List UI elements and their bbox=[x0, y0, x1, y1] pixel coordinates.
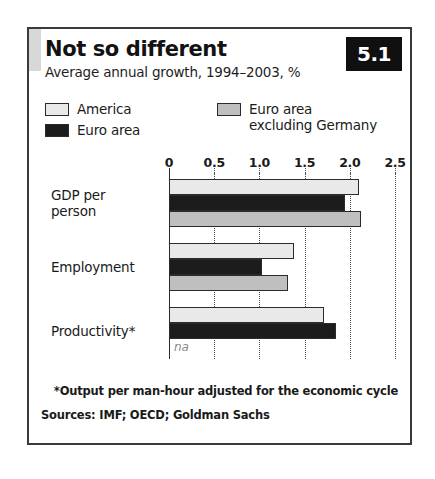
legend-item-euro-area: Euro area bbox=[45, 122, 205, 138]
legend-column-left: America Euro area bbox=[45, 101, 205, 143]
legend-label-line1: Euro area bbox=[249, 101, 312, 117]
bar-0-0 bbox=[169, 179, 359, 195]
legend-label-euro-excl-germany: Euro area excluding Germany bbox=[249, 101, 377, 133]
chart-sources: Sources: IMF; OECD; Goldman Sachs bbox=[41, 408, 270, 422]
chart-legend: America Euro area Euro area excluding Ge… bbox=[45, 101, 401, 147]
bar-1-0 bbox=[169, 243, 294, 259]
bar-1-1 bbox=[169, 259, 262, 275]
chart-header: Not so different Average annual growth, … bbox=[45, 37, 402, 81]
x-axis-tick-labels: 00.51.01.52.02.5 bbox=[45, 155, 401, 173]
chart-footnote: *Output per man-hour adjusted for the ec… bbox=[54, 384, 398, 398]
chart-number-badge: 5.1 bbox=[346, 37, 402, 71]
plot-area: 00.51.01.52.02.5 na bbox=[45, 155, 401, 370]
legend-column-right: Euro area excluding Germany bbox=[217, 101, 407, 138]
bar-group-2: na bbox=[45, 307, 401, 355]
legend-label-line2: excluding Germany bbox=[249, 117, 377, 133]
legend-label-euro-area: Euro area bbox=[77, 122, 140, 138]
bars-layer: na bbox=[45, 173, 401, 359]
bar-2-0 bbox=[169, 307, 324, 323]
bar-0-1 bbox=[169, 195, 345, 211]
frame-accent-bar bbox=[29, 29, 41, 71]
bar-group-1 bbox=[45, 243, 401, 291]
bar-2-1 bbox=[169, 323, 336, 339]
legend-swatch-euro-area bbox=[45, 124, 69, 137]
legend-swatch-euro-excl-germany bbox=[217, 103, 241, 116]
legend-label-america: America bbox=[77, 101, 131, 117]
bar-1-2 bbox=[169, 275, 288, 291]
bar-0-2 bbox=[169, 211, 361, 227]
chart-figure-frame: Not so different Average annual growth, … bbox=[27, 27, 412, 445]
legend-item-america: America bbox=[45, 101, 205, 117]
legend-swatch-america bbox=[45, 103, 69, 116]
bar-na-label: na bbox=[174, 339, 189, 355]
legend-item-euro-excl-germany: Euro area excluding Germany bbox=[217, 101, 407, 133]
bar-group-0 bbox=[45, 179, 401, 227]
